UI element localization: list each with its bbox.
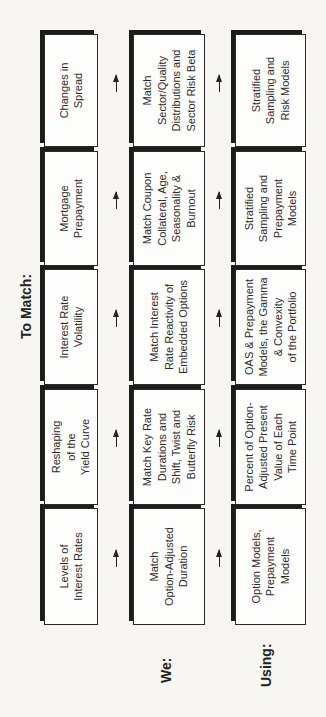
label-using: Using: [258, 643, 274, 687]
arrow-right-icon [116, 192, 117, 209]
arrow-right-icon [219, 310, 220, 327]
we-box-sector-quality-distributions: Match Sector/Quality Distributions and S… [133, 34, 205, 147]
arrow-right-icon [219, 75, 220, 92]
we-box-coupon-collateral-age: Match Coupon Collateral, Age, Seasonalit… [133, 151, 205, 266]
using-box-stratified-risk-models: Stratified Sampling and Risk Models [235, 34, 306, 147]
arrow-right-icon [116, 550, 117, 567]
using-box-option-prepayment-models: Option Models, Prepayment Models [235, 508, 306, 625]
risk-box-levels-of-interest-rates: Levels of Interest Rates [44, 508, 98, 625]
arrow-right-icon [116, 75, 117, 92]
using-box-stratified-prepayment: Stratified Sampling and Prepayment Model… [235, 151, 306, 266]
arrow-right-icon [219, 550, 220, 567]
arrow-right-icon [219, 192, 220, 209]
we-box-option-adjusted-duration: Match Option-Adjusted Duration [133, 508, 205, 625]
arrow-right-icon [219, 430, 220, 447]
we-box-key-rate-durations: Match Key Rate Durations and Shift, Twis… [133, 389, 205, 505]
label-to-match: To Match: [18, 274, 34, 339]
we-box-interest-rate-reactivity: Match Interest Rate Reactivity of Embedd… [133, 269, 205, 385]
using-box-oas-prepayment-gamma: OAS & Prepayment Models, the Gamma & Con… [235, 269, 306, 385]
label-we: We: [158, 658, 174, 683]
arrow-right-icon [116, 430, 117, 447]
risk-box-reshaping-yield-curve: Reshaping of the Yield Curve [44, 389, 98, 505]
risk-box-changes-in-spread: Changes in Spread [44, 34, 98, 147]
arrow-right-icon [116, 310, 117, 327]
risk-box-mortgage-prepayment: Mortgage Prepayment [44, 151, 98, 266]
risk-box-interest-rate-volatility: Interest Rate Volatility [44, 269, 98, 385]
using-box-percent-option-adjusted-pv: Percent of Option- Adjusted Present Valu… [235, 389, 306, 505]
risk-matching-diagram: To Match: We: Using: Levels of Interest … [0, 0, 326, 717]
